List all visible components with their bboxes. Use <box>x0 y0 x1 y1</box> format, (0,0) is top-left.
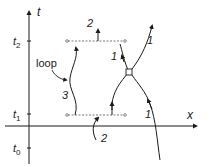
upper-arrow-label: 2 <box>86 17 93 29</box>
t-axis-label: t <box>37 5 41 19</box>
upper-right-worldline <box>132 26 152 69</box>
left-branch-lower <box>112 72 129 115</box>
upper-right-label: 1 <box>147 34 153 46</box>
loop-label: loop <box>36 57 57 69</box>
left-branch-label: 1 <box>111 50 117 62</box>
worldline-diagram: t t2 t1 t0 x 2 2 3 loop 1 1 1 <box>0 0 210 167</box>
tick-label-t0: t0 <box>13 142 21 157</box>
upper-dashed-line <box>66 40 127 43</box>
loop-pointer <box>52 70 66 80</box>
lower-arrow-2 <box>93 118 98 140</box>
t-axis <box>27 12 31 164</box>
loop-worldline <box>70 48 77 115</box>
lower-arrow-label: 2 <box>100 132 107 144</box>
lower-right-label: 1 <box>145 108 151 120</box>
crossing-vertex <box>126 69 132 75</box>
left-branch-upper <box>120 44 129 72</box>
tick-label-t1: t1 <box>13 108 21 123</box>
tick-label-t2: t2 <box>13 35 21 50</box>
x-axis-label: x <box>186 108 194 122</box>
loop-curve-label: 3 <box>62 89 69 101</box>
